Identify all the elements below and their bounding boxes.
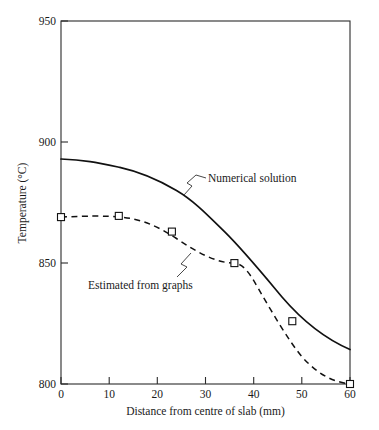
- y-axis-ticks: [61, 21, 68, 384]
- x-tick-label-50: 50: [296, 388, 308, 400]
- x-tick-label-10: 10: [103, 388, 115, 400]
- data-point-marker: [115, 212, 122, 219]
- estimated-from-graphs-leader-line: [177, 253, 191, 277]
- data-point-marker: [58, 214, 65, 221]
- x-tick-label-60: 60: [344, 388, 356, 400]
- estimated-from-graphs-label: Estimated from graphs: [88, 279, 193, 292]
- x-tick-label-20: 20: [152, 388, 164, 400]
- data-point-marker: [289, 318, 296, 325]
- chart-svg: 950 900 850 800 0 10 20 30 40 50 60 Dist…: [0, 0, 379, 430]
- numerical-solution-label: Numerical solution: [208, 172, 297, 184]
- x-tick-label-40: 40: [248, 388, 260, 400]
- data-point-marker: [347, 381, 354, 388]
- y-tick-label-800: 800: [39, 378, 57, 390]
- series-numerical-solution-curve: [61, 159, 350, 350]
- series-estimated-from-graphs-curve: [61, 216, 350, 384]
- series-estimated-from-graphs-markers: [58, 212, 354, 387]
- numerical-solution-leader-line: [184, 175, 206, 195]
- x-tick-label-30: 30: [200, 388, 212, 400]
- annotation-numerical-solution: Numerical solution: [184, 172, 297, 195]
- x-axis-title: Distance from centre of slab (mm): [126, 405, 285, 418]
- x-tick-label-0: 0: [58, 388, 64, 400]
- plot-frame: [61, 21, 350, 384]
- x-axis-tick-labels: 0 10 20 30 40 50 60: [58, 388, 356, 400]
- y-tick-label-950: 950: [39, 15, 57, 27]
- x-axis-ticks: [61, 377, 350, 384]
- y-axis-title: Temperature (°C): [16, 162, 29, 243]
- data-point-marker: [231, 260, 238, 267]
- annotation-estimated-from-graphs: Estimated from graphs: [88, 253, 193, 292]
- chart-figure: 950 900 850 800 0 10 20 30 40 50 60 Dist…: [0, 0, 379, 430]
- data-point-marker: [168, 228, 175, 235]
- y-tick-label-900: 900: [39, 136, 57, 148]
- y-axis-tick-labels: 950 900 850 800: [39, 15, 57, 390]
- y-tick-label-850: 850: [39, 257, 57, 269]
